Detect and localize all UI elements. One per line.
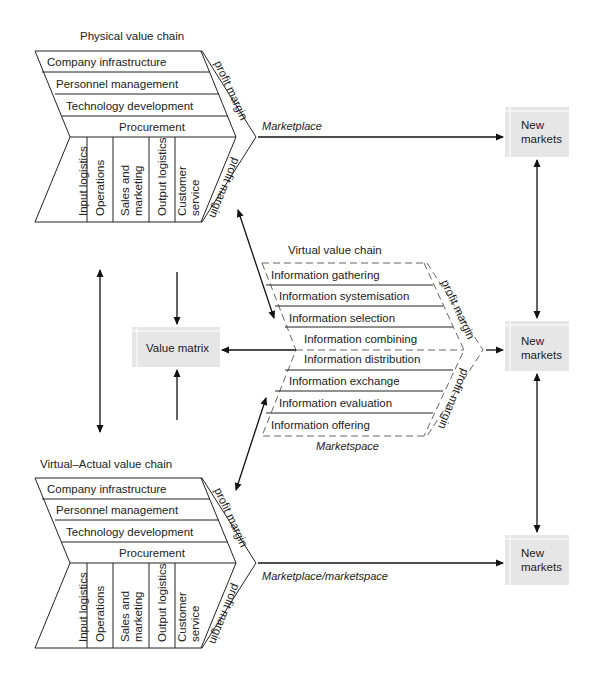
new-markets-label: New bbox=[521, 119, 545, 131]
primary-activity: Sales and bbox=[119, 165, 131, 216]
virtual-activity: Information distribution bbox=[304, 353, 420, 365]
virtual-activity: Information exchange bbox=[289, 375, 400, 387]
profit-margin-label: profit margin bbox=[207, 156, 242, 220]
primary-activity: marketing bbox=[132, 592, 144, 643]
support-activity: Technology development bbox=[66, 526, 194, 538]
new-markets-label: markets bbox=[521, 133, 562, 145]
support-activity: Procurement bbox=[119, 121, 186, 133]
primary-activity: marketing bbox=[132, 166, 144, 217]
marketplace-marketspace-label: Marketplace/marketspace bbox=[262, 570, 388, 582]
primary-activity: Operations bbox=[94, 585, 106, 642]
virtual-actual-chain-title: Virtual–Actual value chain bbox=[40, 458, 172, 470]
profit-margin-label: profit margin bbox=[207, 582, 242, 646]
virtual-activity: Information combining bbox=[304, 333, 417, 345]
primary-activity: Customer bbox=[176, 166, 188, 216]
support-activity: Personnel management bbox=[56, 78, 179, 90]
profit-margin-label: profit margin bbox=[212, 486, 250, 549]
new-markets-box-3: New markets bbox=[505, 535, 569, 585]
primary-activity: Operations bbox=[94, 159, 106, 216]
support-activity: Company infrastructure bbox=[47, 56, 167, 68]
new-markets-label: markets bbox=[521, 349, 562, 361]
new-markets-box-1: New markets bbox=[505, 107, 569, 157]
physical-chain-title: Physical value chain bbox=[80, 30, 184, 42]
double-arrow-icon bbox=[236, 398, 266, 490]
marketplace-label: Marketplace bbox=[262, 120, 322, 132]
primary-activity: Sales and bbox=[119, 591, 131, 642]
primary-activity: service bbox=[189, 606, 201, 642]
virtual-activity: Information evaluation bbox=[279, 397, 392, 409]
support-activity: Technology development bbox=[66, 100, 194, 112]
virtual-value-chain: Virtual value chain Information gatherin… bbox=[262, 244, 483, 452]
primary-activity: Output logistics bbox=[156, 137, 168, 216]
double-arrow-icon bbox=[238, 210, 274, 318]
primary-activity: Input logistics bbox=[77, 572, 89, 642]
support-activity: Procurement bbox=[119, 547, 186, 559]
new-markets-label: markets bbox=[521, 561, 562, 573]
primary-activity: Input logistics bbox=[77, 146, 89, 216]
virtual-activity: Information gathering bbox=[271, 269, 380, 281]
new-markets-box-2: New markets bbox=[505, 321, 569, 371]
primary-activity: Customer bbox=[176, 592, 188, 642]
value-matrix-box: Value matrix bbox=[132, 327, 220, 367]
virtual-activity: Information systemisation bbox=[279, 290, 409, 302]
primary-activity: service bbox=[189, 180, 201, 216]
physical-value-chain: Physical value chain Company infrastruct… bbox=[35, 30, 256, 222]
support-activity: Personnel management bbox=[56, 504, 179, 516]
marketspace-label: Marketspace bbox=[316, 440, 379, 452]
support-activity: Company infrastructure bbox=[47, 483, 167, 495]
value-matrix-label: Value matrix bbox=[146, 342, 209, 354]
virtual-activity: Information offering bbox=[271, 419, 370, 431]
virtual-activity: Information selection bbox=[289, 312, 395, 324]
primary-activity: Output logistics bbox=[156, 563, 168, 642]
profit-margin-label: profit margin bbox=[212, 59, 250, 122]
virtual-chain-title: Virtual value chain bbox=[288, 244, 382, 256]
new-markets-label: New bbox=[521, 335, 545, 347]
virtual-actual-value-chain: Virtual–Actual value chain Company infra… bbox=[35, 458, 256, 648]
new-markets-label: New bbox=[521, 547, 545, 559]
